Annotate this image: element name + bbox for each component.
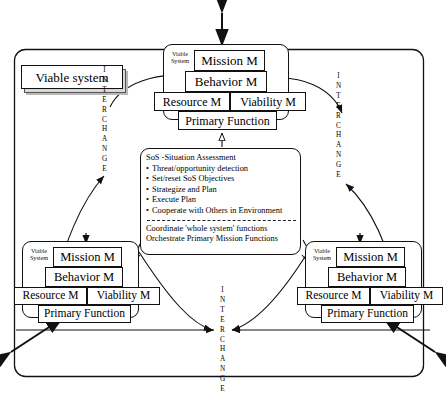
node-behavior-top: Behavior M [185,71,267,92]
sos-bullet: Set/reset SoS Objectives [146,174,300,185]
sos-divider [147,220,296,221]
node-primary-function-top: Primary Function [178,111,277,130]
sos-header: SoS -Situation Assessment [146,153,300,164]
viable-system-label-bottom-left: ViableSystem [25,247,53,262]
node-mission-top: Mission M [194,50,265,71]
node-resource-bottom-left: Resource M [14,287,87,305]
node-viability-bottom-right: Viability M [370,287,443,305]
sos-bullet: Strategize and Plan [146,185,300,196]
node-resource-top: Resource M [154,92,230,111]
interchange-label-left: INTERCHANGE [99,66,110,175]
sos-bullet: Execute Plan [146,195,300,206]
sos-footer-line1: Coordinate 'whole system' functions [146,224,300,235]
sos-footer-line2: Orchestrate Primary Mission Functions [146,234,300,245]
sos-situation-assessment-box: SoS -Situation Assessment Threat/opportu… [140,148,301,255]
node-viability-bottom-left: Viability M [87,287,160,305]
node-mission-bottom-right: Mission M [336,247,405,267]
viable-system-label-bottom-right: ViableSystem [308,247,336,262]
interchange-label-right: INTERCHANGE [333,72,344,181]
node-primary-function-bottom-right: Primary Function [321,305,414,323]
node-resource-bottom-right: Resource M [297,287,370,305]
node-behavior-bottom-left: Behavior M [45,267,123,287]
interchange-label-bottom: INTERCHANGE [217,286,228,395]
viable-system-label-top: ViableSystem [166,50,194,65]
node-behavior-bottom-right: Behavior M [328,267,406,287]
sos-bullet: Cooperate with Others in Environment [146,206,300,217]
node-viability-top: Viability M [230,92,306,111]
node-mission-bottom-left: Mission M [53,247,122,267]
sos-bullet-list: Threat/opportunity detection Set/reset S… [146,164,300,217]
node-primary-function-bottom-left: Primary Function [38,305,131,323]
sos-bullet: Threat/opportunity detection [146,164,300,175]
